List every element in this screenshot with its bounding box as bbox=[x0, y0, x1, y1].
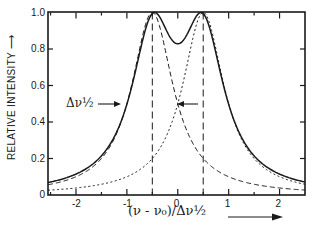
halfwidth-arrow-right bbox=[177, 101, 198, 107]
y-axis-label: RELATIVE INTENSITY ⟶ bbox=[6, 35, 17, 160]
y-axis-arrow-icon: ⟶ bbox=[6, 35, 17, 49]
halfwidth-annotation: Δν½ bbox=[66, 96, 94, 110]
y-axis-label-text: RELATIVE INTENSITY bbox=[6, 52, 17, 160]
x-tick-label: -2 bbox=[72, 199, 81, 209]
x-direction-arrow bbox=[228, 214, 283, 221]
halfwidth-arrow-left bbox=[98, 101, 121, 107]
y-tick-label: 0.6 bbox=[31, 81, 45, 91]
y-tick-label: 1.0 bbox=[31, 8, 45, 18]
x-tick-label: 1 bbox=[225, 199, 231, 209]
y-tick-label: 0.4 bbox=[31, 117, 45, 127]
x-axis-label: (ν - ν₀)/Δν½ bbox=[128, 203, 206, 218]
line-profile-chart bbox=[0, 0, 314, 235]
x-tick-label: 2 bbox=[276, 199, 282, 209]
y-tick-label: 0.8 bbox=[31, 44, 45, 54]
y-tick-label: 0.2 bbox=[31, 154, 45, 164]
y-tick-label: 0 bbox=[39, 190, 45, 200]
